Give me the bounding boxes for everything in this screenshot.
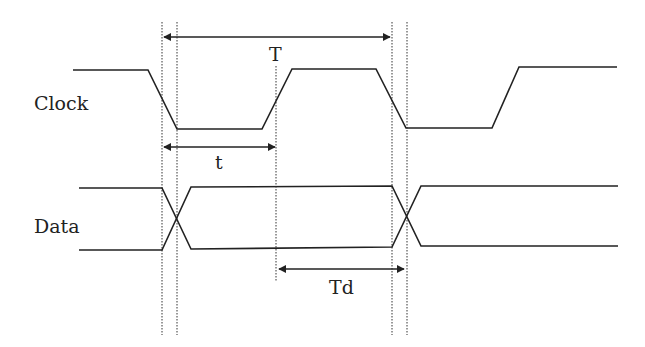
pulse-width-label: t <box>215 151 223 173</box>
delay-label: Td <box>329 276 354 298</box>
timing-diagram: Clock Data T t Td <box>0 0 645 347</box>
interval-arrows <box>164 37 404 269</box>
data-waveform <box>79 186 618 250</box>
data-label: Data <box>34 215 80 237</box>
clock-label: Clock <box>34 92 89 114</box>
clock-waveform <box>73 67 617 129</box>
period-label: T <box>269 43 282 65</box>
